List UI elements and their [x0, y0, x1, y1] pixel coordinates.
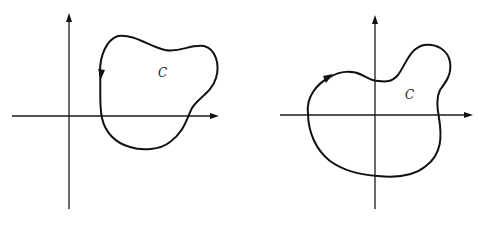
right-x-axis-arrow-icon [464, 112, 473, 118]
left-direction-arrow-icon [98, 69, 105, 79]
right-direction-arrow-icon [323, 74, 333, 83]
left-curve-label: C [158, 66, 167, 80]
left-panel: C [12, 13, 219, 209]
right-panel: C [280, 15, 473, 209]
right-y-axis-arrow-icon [372, 15, 378, 24]
figure-canvas: C C [0, 0, 478, 229]
left-y-axis-arrow-icon [66, 13, 72, 22]
contour-figure: C C [0, 0, 478, 229]
left-x-axis-arrow-icon [210, 113, 219, 119]
left-contour-curve [100, 36, 218, 150]
right-contour-curve [308, 45, 451, 177]
right-curve-label: C [405, 88, 414, 102]
